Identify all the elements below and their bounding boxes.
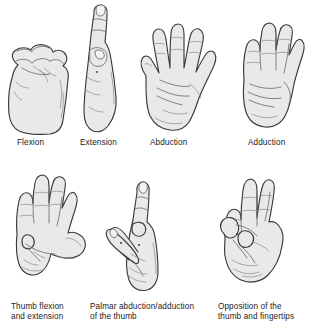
- thumb-touching-fingertip-icon: [200, 168, 300, 303]
- caption-flexion: Flexion: [17, 138, 44, 148]
- hand-movements-figure: Flexion Extension: [0, 0, 309, 333]
- panel-palmar-abduction-adduction: Palmar abduction/adduction of the thumb: [93, 168, 183, 303]
- caption-palmar-abduction-adduction: Palmar abduction/adduction of the thumb: [90, 302, 220, 322]
- open-palm-fingers-spread-icon: [133, 18, 219, 135]
- panel-abduction: Abduction: [133, 18, 219, 135]
- side-hand-thumb-lifted-icon: [93, 168, 183, 303]
- palm-thumb-across-palm-icon: [0, 168, 92, 303]
- open-palm-fingers-together-icon: [226, 18, 309, 135]
- closed-fist-hand-icon: [0, 30, 78, 135]
- caption-extension: Extension: [80, 138, 117, 148]
- caption-opposition: Opposition of the thumb and fingertips: [218, 302, 309, 322]
- panel-adduction: Adduction: [226, 18, 309, 135]
- caption-abduction: Abduction: [150, 138, 187, 148]
- panel-extension: Extension: [72, 2, 134, 135]
- panel-flexion: Flexion: [0, 30, 78, 135]
- extended-straight-hand-icon: [72, 2, 134, 135]
- panel-thumb-flexion-extension: Thumb flexion and extension: [0, 168, 92, 303]
- caption-adduction: Adduction: [248, 138, 285, 148]
- panel-opposition: Opposition of the thumb and fingertips: [200, 168, 300, 303]
- caption-thumb-flexion-extension: Thumb flexion and extension: [11, 302, 64, 322]
